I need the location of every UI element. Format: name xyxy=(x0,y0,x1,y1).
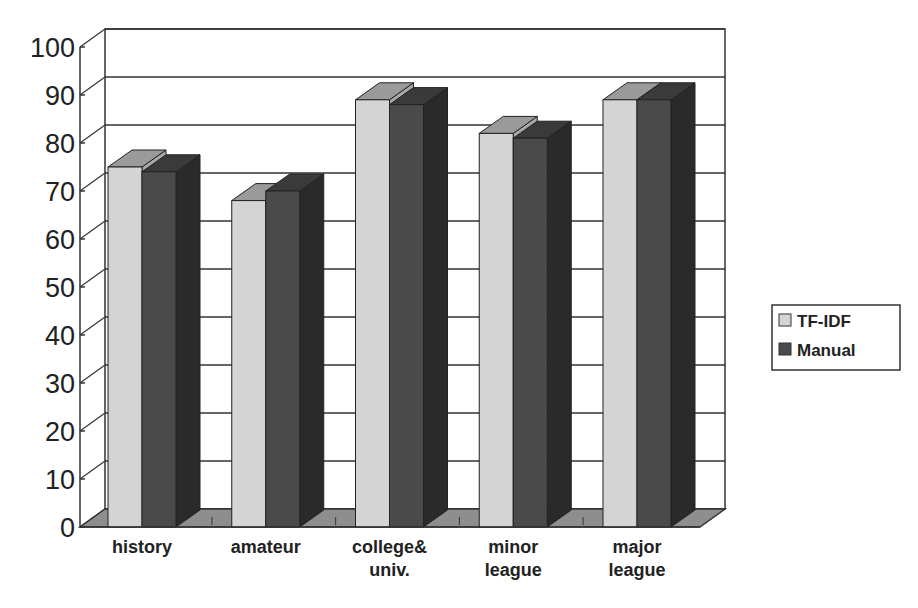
bar-manual-0 xyxy=(142,155,200,527)
gridline-depth xyxy=(80,269,105,287)
y-tick-label: 30 xyxy=(45,369,75,399)
gridline-depth xyxy=(80,125,105,143)
bar-side-face xyxy=(671,83,695,527)
legend: TF-IDF Manual xyxy=(772,305,900,370)
y-tick-label: 60 xyxy=(45,225,75,255)
x-tick-label: history xyxy=(112,537,172,557)
bar-manual-4 xyxy=(637,83,695,527)
x-tick-label: major xyxy=(612,537,661,557)
gridline-depth xyxy=(80,365,105,383)
y-tick-label: 90 xyxy=(45,81,75,111)
y-tick-label: 70 xyxy=(45,177,75,207)
legend-swatch-manual xyxy=(779,343,791,355)
bar-front-face xyxy=(390,105,424,527)
bar-front-face xyxy=(356,100,390,527)
legend-label-manual: Manual xyxy=(797,341,856,360)
y-tick-label: 0 xyxy=(60,513,75,543)
legend-label-tfidf: TF-IDF xyxy=(797,312,851,331)
bar-chart: 0102030405060708090100 historyamateurcol… xyxy=(0,0,918,608)
gridline-depth xyxy=(80,461,105,479)
bar-side-face xyxy=(176,155,200,527)
legend-swatch-tfidf xyxy=(779,314,791,326)
gridline-depth xyxy=(80,29,105,47)
bar-front-face xyxy=(108,167,142,527)
y-tick-label: 20 xyxy=(45,417,75,447)
y-tick-label: 40 xyxy=(45,321,75,351)
bar-front-face xyxy=(637,100,671,527)
bar-front-face xyxy=(142,172,176,527)
x-tick-label: univ. xyxy=(369,560,410,580)
y-tick-label: 100 xyxy=(30,33,75,63)
y-tick-label: 10 xyxy=(45,465,75,495)
y-tick-label: 80 xyxy=(45,129,75,159)
gridline-depth xyxy=(80,221,105,239)
bar-manual-2 xyxy=(390,88,448,527)
gridline-depth xyxy=(80,413,105,431)
bar-side-face xyxy=(424,88,448,527)
x-tick-label: college& xyxy=(352,537,427,557)
gridline-depth xyxy=(80,173,105,191)
x-tick-label: minor xyxy=(488,537,538,557)
bar-front-face xyxy=(266,191,300,527)
bar-side-face xyxy=(300,174,324,527)
x-tick-label: amateur xyxy=(231,537,301,557)
x-tick-label: league xyxy=(485,560,542,580)
bar-front-face xyxy=(513,138,547,527)
x-axis: historyamateurcollege&univ.minorleaguema… xyxy=(80,527,700,580)
bar-front-face xyxy=(603,100,637,527)
y-tick-label: 50 xyxy=(45,273,75,303)
bar-side-face xyxy=(547,121,571,527)
bar-manual-1 xyxy=(266,174,324,527)
gridline-depth xyxy=(80,77,105,95)
y-axis: 0102030405060708090100 xyxy=(30,33,75,543)
bar-front-face xyxy=(479,133,513,527)
x-tick-label: league xyxy=(608,560,665,580)
gridline-depth xyxy=(80,317,105,335)
bar-manual-3 xyxy=(513,121,571,527)
bar-front-face xyxy=(232,201,266,527)
